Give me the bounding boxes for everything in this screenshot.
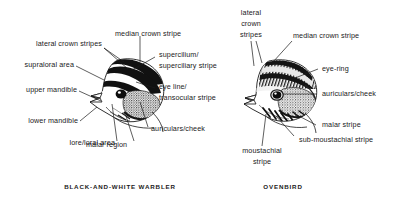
label-lateral-crown-stripes-ovenbird-line2: crown [228, 18, 274, 30]
label-eye-line-warbler-line2: transocular stripe [159, 92, 216, 104]
label-median-crown-stripe-warbler: median crown stripe [115, 28, 181, 40]
bird-topography-figure: lateral crown stripes supraloral area up… [0, 0, 402, 202]
label-moustachial-stripe-ovenbird-line1: moustachial [228, 145, 296, 157]
label-eye-ring-ovenbird: eye-ring [322, 63, 349, 75]
label-supercilium-warbler-line2: superciliary stripe [159, 60, 217, 72]
label-malar-region-warbler: malar region [86, 139, 127, 151]
caption-black-and-white-warbler: BLACK-AND-WHITE WARBLER [55, 183, 185, 190]
label-moustachial-stripe-ovenbird-line2: stripe [228, 156, 296, 168]
label-supraloral-area-warbler: supraloral area [0, 59, 74, 71]
label-auriculars-cheek-ovenbird: auriculars/cheek [322, 88, 376, 100]
label-median-crown-stripe-ovenbird: median crown stripe [293, 30, 359, 42]
label-lateral-crown-stripes-ovenbird-line3: stripes [228, 29, 274, 41]
label-malar-stripe-ovenbird: malar stripe [322, 119, 361, 131]
label-auriculars-cheek-warbler: auriculars/cheek [151, 123, 205, 135]
label-lateral-crown-stripes-warbler: lateral crown stripes [0, 38, 102, 50]
label-supercilium-warbler-line1: supercilium/ [159, 49, 199, 61]
label-eye-line-warbler-line1: eye line/ [159, 81, 187, 93]
label-lateral-crown-stripes-ovenbird-line1: lateral [228, 7, 274, 19]
label-sub-moustachial-stripe-ovenbird: sub-moustachial stripe [299, 134, 373, 146]
label-upper-mandible-warbler: upper mandible [0, 84, 77, 96]
ovenbird-head-illustration [243, 55, 325, 135]
label-lower-mandible-warbler: lower mandible [0, 115, 78, 127]
caption-ovenbird: OVENBIRD [218, 183, 348, 190]
